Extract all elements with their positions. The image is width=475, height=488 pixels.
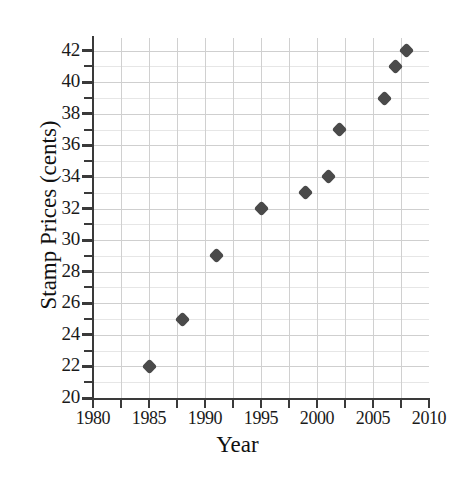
y-axis-tick-minor bbox=[84, 381, 93, 383]
grid-layer bbox=[93, 38, 429, 398]
gridline-vertical bbox=[401, 38, 402, 398]
x-axis-tick-minor bbox=[232, 400, 234, 408]
y-axis-tick bbox=[82, 270, 93, 273]
x-axis-tick-label: 1990 bbox=[188, 408, 222, 429]
x-axis-tick bbox=[92, 400, 94, 408]
x-axis-tick-label: 1985 bbox=[132, 408, 166, 429]
y-axis-tick-minor bbox=[84, 223, 93, 225]
gridline-vertical bbox=[373, 38, 374, 398]
y-axis-tick-minor bbox=[84, 318, 93, 320]
y-axis-tick bbox=[82, 144, 93, 147]
gridline-vertical bbox=[205, 38, 206, 398]
y-axis-title: Stamp Prices (cents) bbox=[36, 65, 62, 365]
y-axis-tick-label: 42 bbox=[52, 39, 80, 61]
y-axis-tick-minor bbox=[84, 350, 93, 352]
gridline-vertical bbox=[289, 38, 290, 398]
chart-figure: 202224262830323436384042 198019851990199… bbox=[0, 0, 475, 488]
y-axis-tick-label: 20 bbox=[52, 386, 80, 408]
gridline-vertical bbox=[261, 38, 262, 398]
gridline-vertical bbox=[345, 38, 346, 398]
x-axis-tick-label: 2005 bbox=[356, 408, 390, 429]
y-axis-tick-minor bbox=[84, 97, 93, 99]
x-axis-tick-minor bbox=[120, 400, 122, 408]
plot-area bbox=[93, 38, 429, 398]
x-axis-tick-minor bbox=[400, 400, 402, 408]
y-axis-tick-minor bbox=[84, 160, 93, 162]
x-axis-tick-minor bbox=[344, 400, 346, 408]
y-axis-tick bbox=[82, 239, 93, 242]
x-axis-tick-label: 2000 bbox=[300, 408, 334, 429]
x-axis-tick-label: 1980 bbox=[76, 408, 110, 429]
y-axis-tick bbox=[82, 302, 93, 305]
x-axis-tick-label: 2010 bbox=[412, 408, 446, 429]
gridline-vertical bbox=[317, 38, 318, 398]
x-axis-tick bbox=[148, 400, 150, 408]
y-axis-tick-minor bbox=[84, 192, 93, 194]
gridline-vertical bbox=[149, 38, 150, 398]
x-axis-tick bbox=[428, 400, 430, 408]
x-axis-tick bbox=[372, 400, 374, 408]
gridline-vertical bbox=[177, 38, 178, 398]
gridline-vertical bbox=[233, 38, 234, 398]
y-axis-tick-minor bbox=[84, 65, 93, 67]
x-axis-tick bbox=[260, 400, 262, 408]
x-axis-tick-minor bbox=[176, 400, 178, 408]
y-axis-tick bbox=[82, 112, 93, 115]
x-axis-tick bbox=[316, 400, 318, 408]
x-axis-title: Year bbox=[0, 432, 475, 458]
y-axis-tick bbox=[82, 365, 93, 368]
y-axis-tick-minor bbox=[84, 129, 93, 131]
y-axis-tick bbox=[82, 49, 93, 52]
y-axis-tick-minor bbox=[84, 286, 93, 288]
y-axis-spine bbox=[92, 36, 94, 400]
y-axis-tick bbox=[82, 207, 93, 210]
y-axis-tick bbox=[82, 81, 93, 84]
x-axis-tick-minor bbox=[288, 400, 290, 408]
x-axis-tick bbox=[204, 400, 206, 408]
x-axis-tick-label: 1995 bbox=[244, 408, 278, 429]
gridline-vertical bbox=[121, 38, 122, 398]
y-axis-tick bbox=[82, 333, 93, 336]
y-axis-tick bbox=[82, 175, 93, 178]
y-axis-tick-minor bbox=[84, 255, 93, 257]
